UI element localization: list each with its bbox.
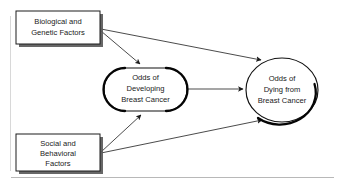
node-biological-line2: Genetic Factors [31, 28, 85, 37]
edge-biological-to-developing [101, 31, 140, 64]
node-social-line1: Social and [40, 139, 75, 148]
node-developing-line2: Developing [127, 84, 165, 93]
node-social-line2: Behavioral [40, 149, 76, 158]
edge-biological-to-dying [101, 29, 261, 60]
node-dying-line2: Dying from [264, 85, 301, 94]
node-social-line3: Factors [45, 159, 71, 168]
node-dying-line1: Odds of [269, 74, 296, 83]
node-social-factors[interactable]: Social and Behavioral Factors [16, 134, 103, 174]
causal-diagram: Biological and Genetic Factors Social an… [0, 0, 341, 185]
node-developing-line3: Breast Cancer [121, 95, 170, 104]
node-biological-factors[interactable]: Biological and Genetic Factors [16, 11, 103, 47]
edge-social-to-dying [101, 120, 262, 153]
node-biological-line1: Biological and [34, 17, 81, 26]
node-odds-dying[interactable]: Odds of Dying from Breast Cancer [246, 58, 318, 125]
node-dying-line3: Breast Cancer [258, 96, 307, 105]
node-developing-line1: Odds of [132, 73, 159, 82]
diagram-page: Biological and Genetic Factors Social an… [0, 0, 341, 185]
node-odds-developing[interactable]: Odds of Developing Breast Cancer [104, 68, 188, 111]
